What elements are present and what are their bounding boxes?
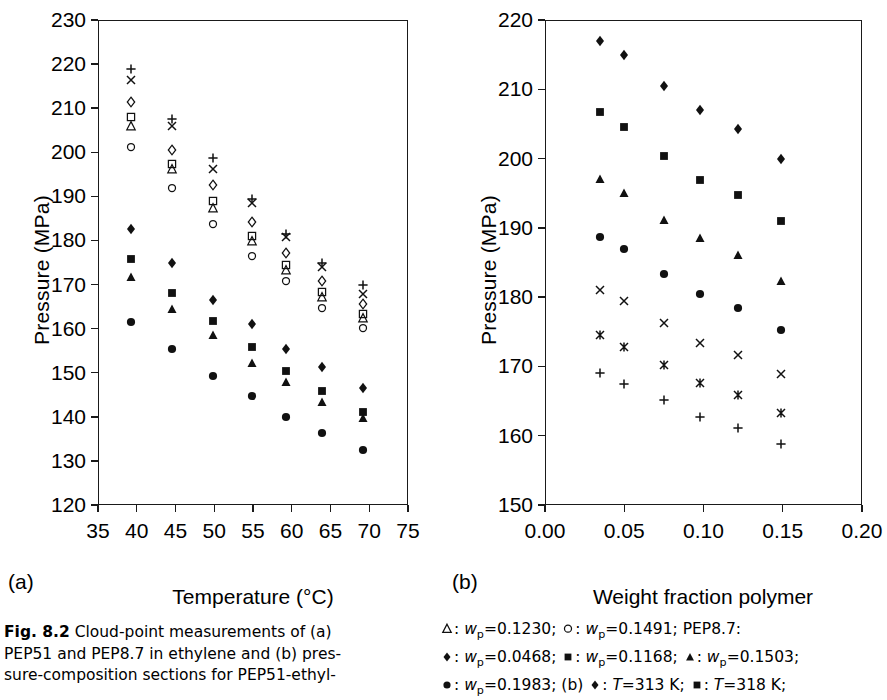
x-tick (330, 505, 331, 512)
data-point-open-circle (312, 298, 332, 318)
caption-line-3: sure-composition sections for PEP51-ethy… (4, 666, 336, 684)
figure-number: Fig. 8.2 (4, 623, 70, 641)
x-tick (861, 505, 862, 512)
filled-diamond-icon-2 (588, 676, 602, 699)
caption-line-2: PEP51 and PEP8.7 in ethylene and (b) pre… (4, 645, 341, 663)
y-tick-label: 200 (467, 147, 533, 171)
y-tick (538, 435, 545, 436)
data-point-filled-triangle (771, 271, 791, 291)
x-tick-label: 35 (86, 519, 109, 543)
data-point-filled-diamond (614, 45, 634, 65)
y-tick-label: 130 (20, 449, 86, 473)
data-point-filled-diamond (590, 31, 610, 51)
x-tick (97, 505, 98, 512)
y-tick-label: 140 (20, 405, 86, 429)
y-tick (91, 240, 98, 241)
data-point-cross (162, 116, 182, 136)
data-point-filled-square (614, 117, 634, 137)
data-point-asterisk (690, 373, 710, 393)
filled-square-icon (561, 648, 575, 671)
y-tick-label: 160 (467, 424, 533, 448)
data-point-filled-diamond (771, 149, 791, 169)
y-tick-label: 200 (20, 140, 86, 164)
data-point-filled-triangle (654, 210, 674, 230)
legend-value-2: 0.1491 (618, 620, 672, 638)
x-tick (136, 505, 137, 512)
x-tick (703, 505, 704, 512)
y-tick (91, 63, 98, 64)
legend-value-4: 0.1168 (618, 648, 672, 666)
legend-line-3: : wp=0.1983; (b) : T=313 K; : T=318 K; (440, 674, 887, 700)
data-point-filled-square (728, 185, 748, 205)
x-tick (252, 505, 253, 512)
data-point-filled-diamond (312, 357, 332, 377)
data-point-cross (590, 280, 610, 300)
data-point-asterisk (771, 403, 791, 423)
data-point-filled-triangle (312, 392, 332, 412)
y-tick-label: 170 (20, 273, 86, 297)
y-tick-label: 180 (467, 285, 533, 309)
y-tick (91, 196, 98, 197)
data-point-filled-triangle (728, 245, 748, 265)
x-tick (291, 505, 292, 512)
data-point-open-triangle (121, 116, 141, 136)
y-tick-label: 170 (467, 354, 533, 378)
data-point-open-circle (162, 178, 182, 198)
panel-a-label: (a) (8, 570, 34, 594)
data-point-filled-circle (690, 284, 710, 304)
y-tick (538, 89, 545, 90)
data-point-filled-square (654, 146, 674, 166)
data-point-filled-diamond (654, 76, 674, 96)
y-tick (538, 296, 545, 297)
data-point-plus (771, 434, 791, 454)
x-tick-label: 0.05 (604, 519, 645, 543)
legend-line-2: : wp=0.0468; : wp=0.1168; : wp=0.1503; (440, 646, 887, 674)
data-point-filled-square (690, 170, 710, 190)
data-point-cross (690, 333, 710, 353)
data-point-filled-square (121, 249, 141, 269)
legend-panel-b-marker: (b) (561, 676, 583, 694)
data-point-filled-circle (353, 440, 373, 460)
data-point-filled-circle (276, 407, 296, 427)
y-tick (538, 158, 545, 159)
data-point-cross (614, 291, 634, 311)
data-point-filled-circle (121, 312, 141, 332)
legend-line-1: : wp=0.1230; : wp=0.1491; PEP8.7: (440, 618, 887, 646)
data-point-filled-diamond (728, 119, 748, 139)
y-tick-label: 220 (467, 8, 533, 32)
filled-diamond-icon (440, 648, 454, 671)
open-triangle-icon (439, 618, 455, 644)
data-point-filled-circle (614, 239, 634, 259)
data-point-asterisk (614, 337, 634, 357)
data-point-filled-diamond (690, 100, 710, 120)
y-tick (538, 227, 545, 228)
legend-value-3: 0.0468 (497, 648, 551, 666)
x-axis-label-b: Weight fraction polymer (593, 585, 813, 609)
data-point-filled-square (771, 211, 791, 231)
x-tick (175, 505, 176, 512)
data-point-open-circle (353, 318, 373, 338)
x-tick-label: 0.00 (525, 519, 566, 543)
y-tick (538, 366, 545, 367)
y-tick (91, 460, 98, 461)
data-point-filled-diamond (353, 378, 373, 398)
x-tick-label: 0.20 (842, 519, 883, 543)
y-tick-label: 220 (20, 52, 86, 76)
data-point-cross (242, 193, 262, 213)
x-tick (782, 505, 783, 512)
y-tick-label: 230 (20, 8, 86, 32)
data-point-plus (614, 374, 634, 394)
filled-triangle-icon (683, 648, 697, 671)
data-point-cross (728, 345, 748, 365)
y-tick-label: 160 (20, 317, 86, 341)
x-tick (369, 505, 370, 512)
plot-frame-b (545, 20, 862, 505)
y-tick-label: 120 (20, 493, 86, 517)
data-point-filled-circle (312, 423, 332, 443)
y-tick (91, 19, 98, 20)
x-tick-label: 70 (358, 519, 381, 543)
y-tick-label: 180 (20, 228, 86, 252)
x-tick-label: 65 (319, 519, 342, 543)
panel-b-label: (b) (452, 570, 478, 594)
y-tick-label: 190 (20, 184, 86, 208)
